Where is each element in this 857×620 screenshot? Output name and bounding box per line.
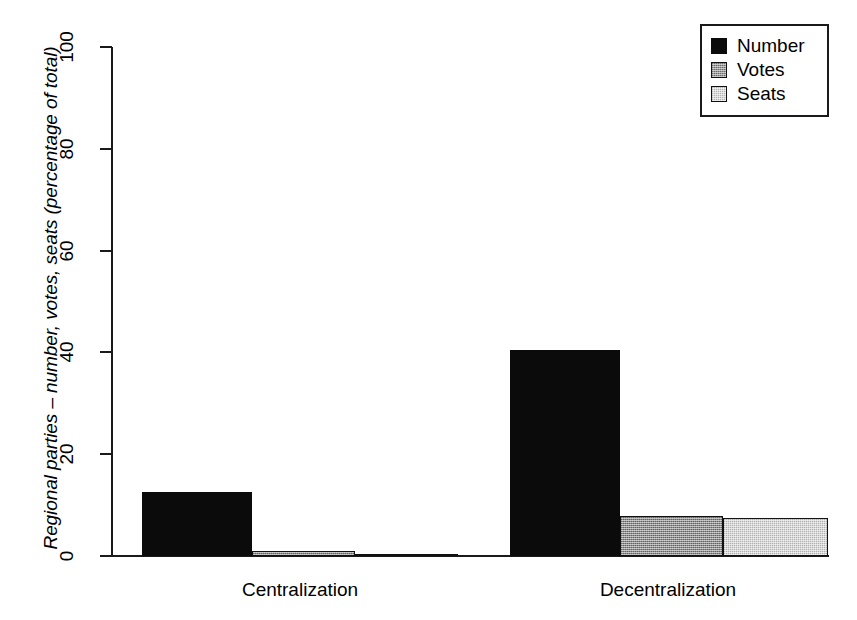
bar-centralization-seats — [355, 554, 458, 556]
bar-decentralization-number — [510, 350, 620, 556]
legend-swatch-seats-icon — [711, 86, 727, 102]
bar-decentralization-votes — [620, 516, 723, 556]
legend-item-votes: Votes — [711, 58, 817, 82]
bar-centralization-votes — [252, 551, 355, 556]
legend-label-votes: Votes — [737, 60, 785, 80]
legend: Number Votes Seats — [700, 24, 829, 117]
legend-swatch-votes-icon — [711, 62, 727, 78]
bar-chart: Regional parties – number, votes, seats … — [0, 0, 857, 620]
legend-item-number: Number — [711, 34, 817, 58]
legend-label-seats: Seats — [737, 84, 786, 104]
legend-item-seats: Seats — [711, 82, 817, 106]
legend-label-number: Number — [737, 36, 805, 56]
legend-swatch-number-icon — [711, 38, 727, 54]
bar-decentralization-seats — [723, 518, 828, 556]
bar-centralization-number — [142, 492, 252, 556]
x-axis-label-centralization: Centralization — [150, 578, 450, 602]
x-axis-label-decentralization: Decentralization — [518, 578, 818, 602]
